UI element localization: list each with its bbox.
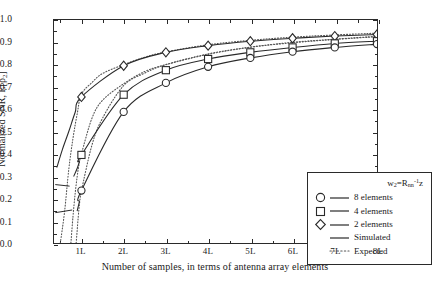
solid-line-icon — [329, 234, 350, 242]
y-tick-label-0.5: 0.5 — [0, 127, 12, 137]
data-marker-circle — [373, 41, 377, 48]
legend-entry-expected: Expected — [312, 245, 426, 258]
legend-entry-label: Simulated — [350, 232, 391, 243]
legend-entry-2-elements: 2 elements — [312, 218, 426, 231]
x-tick-label-4L: 4L — [203, 246, 213, 256]
legend-line-slot — [329, 234, 350, 242]
series-line-4-elements — [74, 41, 377, 176]
plot-frame: w2=Rnn-1z 8 elements4 elements2 elements… — [53, 19, 378, 244]
legend-entry-simulated: Simulated — [312, 231, 426, 244]
legend-marker-slot — [312, 205, 329, 218]
data-marker-diamond — [204, 41, 212, 50]
legend-box: w2=Rnn-1z 8 elements4 elements2 elements… — [307, 172, 432, 265]
legend-entries: 8 elements4 elements2 elementsSimulatedE… — [312, 191, 426, 258]
x-tick-label-8L: 8L — [373, 246, 383, 256]
data-marker-circle — [162, 79, 169, 86]
data-marker-square — [78, 151, 85, 158]
solid-line-icon — [329, 194, 350, 202]
x-tick-label-3L: 3L — [160, 246, 170, 256]
y-tick-label-0.2: 0.2 — [0, 194, 12, 204]
legend-entry-4-elements: 4 elements — [312, 204, 426, 217]
x-tick-label-6L: 6L — [288, 246, 298, 256]
artifact-segment — [55, 210, 72, 213]
data-marker-circle — [331, 44, 338, 51]
x-tick-label-1L: 1L — [75, 246, 85, 256]
y-tick-label-0.8: 0.8 — [0, 59, 12, 69]
data-marker-square — [205, 55, 212, 62]
legend-line-slot — [329, 194, 350, 202]
x-tick-label-5L: 5L — [245, 246, 255, 256]
data-marker-square — [162, 67, 169, 74]
solid-line-icon — [329, 207, 350, 215]
legend-entry-8-elements: 8 elements — [312, 191, 426, 204]
square-marker-icon — [314, 205, 327, 218]
y-tick-label-0.3: 0.3 — [0, 172, 12, 182]
data-marker-diamond — [120, 61, 128, 70]
y-tick-0.0 — [54, 245, 58, 246]
circle-marker-icon — [314, 191, 327, 204]
legend-marker-slot — [312, 191, 329, 204]
legend-marker-slot — [312, 218, 329, 231]
x-tick-8L — [379, 20, 380, 24]
legend-entry-label: 2 elements — [350, 219, 393, 230]
legend-line-slot — [329, 207, 350, 215]
data-marker-circle — [289, 48, 296, 55]
solid-line-icon — [329, 221, 350, 229]
legend-line-slot — [329, 221, 350, 229]
data-marker-circle — [205, 63, 212, 70]
x-tick-label-2L: 2L — [118, 246, 128, 256]
data-marker-circle — [78, 187, 85, 194]
y-tick-label-0.6: 0.6 — [0, 104, 12, 114]
y-tick-label-0.4: 0.4 — [0, 149, 12, 159]
data-marker-square — [120, 91, 127, 98]
data-marker-circle — [247, 54, 254, 61]
series-line-2-elements — [57, 34, 377, 167]
diamond-marker-icon — [314, 218, 327, 231]
data-marker-diamond — [289, 34, 297, 43]
data-marker-diamond — [247, 37, 255, 46]
data-marker-diamond — [162, 48, 170, 57]
y-tick-label-0.9: 0.9 — [0, 37, 12, 47]
legend-entry-label: 4 elements — [350, 206, 393, 217]
x-tick-label-7L: 7L — [330, 246, 340, 256]
data-marker-circle — [120, 108, 127, 115]
y-tick-label-0.7: 0.7 — [0, 82, 12, 92]
y-tick-label-1.0: 1.0 — [0, 14, 12, 24]
y-tick-label-0.0: 0.0 — [0, 239, 12, 249]
y-axis-title-suffix: ] — [0, 71, 7, 74]
legend-title: w2=Rnn-1z — [312, 176, 426, 191]
x-axis-title: Number of samples, in terms of antenna a… — [102, 261, 329, 272]
y-tick-label-0.1: 0.1 — [0, 217, 12, 227]
legend-entry-label: 8 elements — [350, 192, 393, 203]
y-axis-title-subscript: 2 — [1, 75, 8, 78]
